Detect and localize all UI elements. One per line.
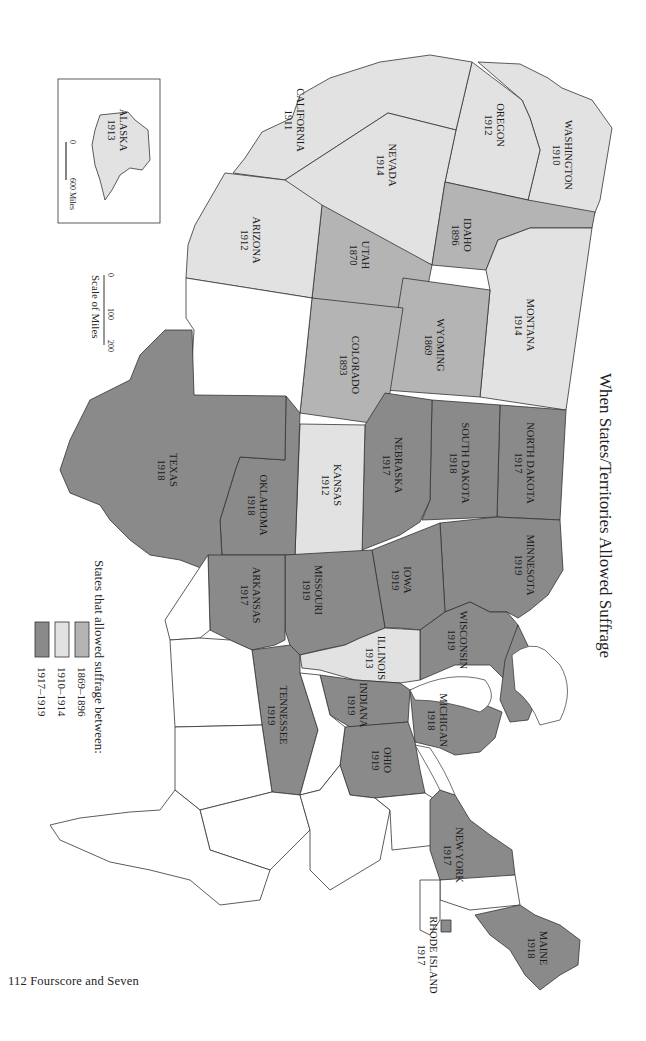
label-alaska: ALASKA xyxy=(118,109,129,152)
legend-label-2: 1910–1914 xyxy=(56,667,68,717)
state-new-york[interactable] xyxy=(430,790,515,880)
svg-text:1919: 1919 xyxy=(266,705,277,726)
svg-text:1919: 1919 xyxy=(346,695,357,716)
legend-label-1: 1869–1896 xyxy=(76,667,88,717)
label-utah: UTAH xyxy=(360,241,371,270)
svg-text:1918: 1918 xyxy=(526,938,537,959)
svg-text:1919: 1919 xyxy=(446,630,457,651)
label-colorado: COLORADO xyxy=(350,336,361,395)
label-washington: WASHINGTON xyxy=(563,120,574,190)
state-rhode-island[interactable] xyxy=(441,920,451,932)
svg-text:1918: 1918 xyxy=(156,460,167,481)
label-arizona: ARIZONA xyxy=(251,216,262,264)
svg-text:1919: 1919 xyxy=(390,570,401,591)
label-california: CALIFORNIA xyxy=(295,88,306,152)
svg-text:200: 200 xyxy=(106,340,115,352)
state-mississippi[interactable] xyxy=(170,638,262,727)
label-south-dakota: SOUTH DAKOTA xyxy=(460,422,471,504)
svg-text:1896: 1896 xyxy=(450,225,461,246)
label-wyoming: WYOMING xyxy=(435,318,446,371)
label-idaho: IDAHO xyxy=(462,218,473,252)
label-missouri: MISSOURI xyxy=(313,565,324,616)
alaska-inset: ALASKA1913 0 600 Miles xyxy=(58,79,160,223)
svg-text:1911: 1911 xyxy=(283,110,294,131)
svg-text:1919: 1919 xyxy=(370,750,381,771)
label-nevada: NEVADA xyxy=(387,144,398,187)
label-rhode-island-1: RHODE ISLAND xyxy=(428,916,439,994)
svg-text:600 Miles: 600 Miles xyxy=(68,178,77,210)
label-ohio: OHIO xyxy=(382,747,393,774)
legend: States that allowed suffrage between: 18… xyxy=(35,560,107,754)
map-title: When States/Territories Allowed Suffrage xyxy=(596,373,615,658)
label-arkansas: ARKANSAS xyxy=(251,567,262,624)
svg-text:1918: 1918 xyxy=(246,495,257,516)
label-oregon: OREGON xyxy=(495,103,506,147)
svg-text:1910: 1910 xyxy=(551,145,562,166)
svg-text:1913: 1913 xyxy=(106,120,117,141)
svg-text:1919: 1919 xyxy=(513,555,524,576)
svg-text:1912: 1912 xyxy=(320,475,331,496)
svg-text:1869: 1869 xyxy=(423,335,434,356)
state-vermont-nh[interactable] xyxy=(440,875,520,910)
svg-text:1917: 1917 xyxy=(416,945,427,966)
label-illinois: ILLINOIS xyxy=(376,636,387,680)
label-maine: MAINE xyxy=(538,931,549,965)
state-louisiana[interactable] xyxy=(165,555,210,640)
svg-text:0: 0 xyxy=(68,140,77,144)
label-tennessee: TENNESSEE xyxy=(278,686,289,745)
label-indiana: INDIANA xyxy=(358,683,369,728)
svg-text:1917: 1917 xyxy=(442,845,453,866)
page-footer: 112 Fourscore and Seven xyxy=(8,974,139,989)
svg-text:0: 0 xyxy=(106,273,115,277)
svg-text:1912: 1912 xyxy=(483,115,494,136)
svg-text:1893: 1893 xyxy=(338,355,349,376)
label-north-dakota: NORTH DAKOTA xyxy=(525,422,536,504)
label-texas: TEXAS xyxy=(168,453,179,487)
label-montana: MONTANA xyxy=(525,299,536,352)
label-wisconsin: WISCONSIN xyxy=(458,611,469,670)
svg-text:100: 100 xyxy=(106,308,115,320)
svg-text:1918: 1918 xyxy=(448,453,459,474)
label-michigan: MICHIGAN xyxy=(438,693,449,747)
svg-text:1917: 1917 xyxy=(381,455,392,476)
svg-text:1870: 1870 xyxy=(348,245,359,266)
suffrage-map: WASHINGTON1910 OREGON1912 CALIFORNIA1911… xyxy=(0,0,646,1041)
svg-text:1917: 1917 xyxy=(239,585,250,606)
state-new-mexico[interactable] xyxy=(186,278,312,413)
scale-label: Scale of Miles xyxy=(90,275,102,339)
legend-swatch-1869-1896 xyxy=(75,622,89,657)
legend-swatch-1910-1914 xyxy=(55,622,69,657)
label-iowa: IOWA xyxy=(402,566,413,594)
label-new-york: NEW YORK xyxy=(454,827,465,883)
scale-of-miles: 0 100 200 Scale of Miles xyxy=(90,273,115,352)
label-nebraska: NEBRASKA xyxy=(393,437,404,494)
svg-text:1917: 1917 xyxy=(513,453,524,474)
svg-text:1913: 1913 xyxy=(364,648,375,669)
label-kansas: KANSAS xyxy=(332,464,343,506)
svg-text:1912: 1912 xyxy=(239,230,250,251)
svg-text:1914: 1914 xyxy=(375,155,386,177)
svg-text:1918: 1918 xyxy=(426,710,437,731)
legend-swatch-1917-1919 xyxy=(35,622,49,657)
legend-heading: States that allowed suffrage between: xyxy=(92,560,107,754)
legend-label-3: 1917–1919 xyxy=(36,667,48,717)
label-minnesota: MINNESOTA xyxy=(525,535,536,596)
state-minnesota[interactable] xyxy=(440,517,563,618)
label-oklahoma: OKLAHOMA xyxy=(258,474,269,536)
svg-text:1914: 1914 xyxy=(513,315,524,337)
svg-text:1919: 1919 xyxy=(301,580,312,601)
